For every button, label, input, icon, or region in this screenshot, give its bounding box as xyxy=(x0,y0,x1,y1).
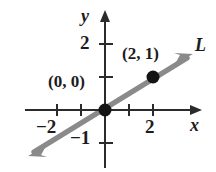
point-label-origin: (0, 0) xyxy=(48,73,85,90)
x-axis-label: x xyxy=(190,116,199,134)
y-tick-label-2: 2 xyxy=(80,33,90,52)
x-axis-arrowhead xyxy=(190,105,202,115)
graph-figure: y x 2 −1 −2 2 (0, 0) (2, 1) L xyxy=(0,0,216,172)
point-origin xyxy=(99,104,112,117)
axis-lines xyxy=(25,18,194,168)
y-tick-label-negative-1: −1 xyxy=(70,128,90,147)
x-tick-label-negative-2: −2 xyxy=(36,117,56,136)
coordinate-plane-svg xyxy=(0,0,216,172)
point-2-1 xyxy=(147,71,160,84)
y-axis-arrowhead xyxy=(100,10,110,22)
point-label-2-1: (2, 1) xyxy=(122,45,159,62)
x-tick-label-2: 2 xyxy=(145,117,155,136)
y-axis-label: y xyxy=(81,7,89,25)
line-L xyxy=(28,53,193,157)
line-label-L: L xyxy=(195,36,206,54)
